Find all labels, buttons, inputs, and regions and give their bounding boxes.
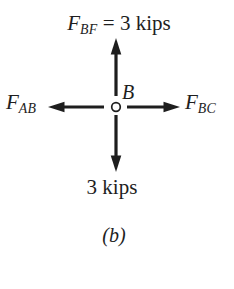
free-body-diagram: FBF = 3 kips FAB FBC B 3 kips (b) — [0, 0, 234, 289]
figure-caption: (b) — [102, 224, 125, 246]
right-force-subscript: BC — [198, 101, 216, 116]
top-force-value: = 3 kips — [98, 11, 171, 35]
bottom-force-label: 3 kips — [87, 176, 138, 199]
left-arrowhead-icon — [48, 102, 65, 113]
top-force-label: FBF = 3 kips — [67, 12, 170, 37]
up-arrowhead-icon — [111, 38, 122, 55]
joint-circle-icon — [112, 103, 121, 112]
top-force-subscript: BF — [80, 22, 98, 37]
left-force-subscript: AB — [19, 101, 37, 116]
top-force-symbol: F — [67, 11, 80, 35]
joint-label: B — [122, 81, 134, 103]
right-force-symbol: F — [185, 90, 198, 114]
left-force-symbol: F — [6, 90, 19, 114]
right-arrowhead-icon — [164, 102, 181, 113]
left-force-label: FAB — [6, 91, 36, 116]
right-force-label: FBC — [185, 91, 216, 116]
down-arrowhead-icon — [111, 156, 122, 173]
